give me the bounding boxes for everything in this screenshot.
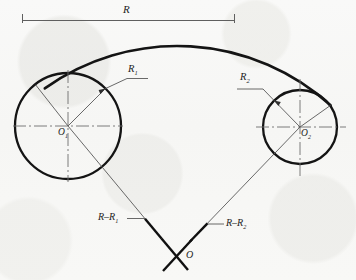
label-R-minus-R2: R–R2 [226,217,246,230]
construction-segment-R-minus-R2 [190,223,208,241]
label-O2-subscript: 2 [308,134,311,140]
construction-segment-R-minus-R1 [145,219,162,239]
label-center-O1: O1 [58,127,68,139]
label-R1-subscript: 1 [134,69,137,76]
tangent-radius-line-1 [36,85,68,126]
label-R2-subscript: 2 [246,77,249,84]
tangent-radius-line-2 [300,105,331,127]
label-R-minus-R1: R–R1 [98,211,118,224]
label-R: R [123,3,130,15]
radius-arrow-R1-head [99,89,106,95]
dimension-line-R [22,14,235,23]
label-R-minus-R1-subscript: 1 [115,217,118,224]
label-R1: R1 [128,63,138,76]
technical-drawing-canvas [0,0,356,280]
radius-arrow-R1-shaft [68,89,105,126]
leader-R2 [237,89,274,101]
origin-cross-stroke-a [162,239,189,271]
radius-arrow-R2-head [274,101,281,107]
radius-arrow-R2 [274,101,300,128]
label-origin-O: O [186,249,193,260]
label-center-O2: O2 [301,128,311,140]
label-R-minus-R2-subscript: 2 [243,223,246,230]
label-O1-subscript: 1 [65,133,68,139]
drawing-sheet: R R1 R2 O1 O2 R–R1 R–R2 O [0,0,356,280]
leader-R1 [105,79,148,89]
radius-arrow-R1 [68,89,105,126]
label-R2: R2 [240,71,250,84]
